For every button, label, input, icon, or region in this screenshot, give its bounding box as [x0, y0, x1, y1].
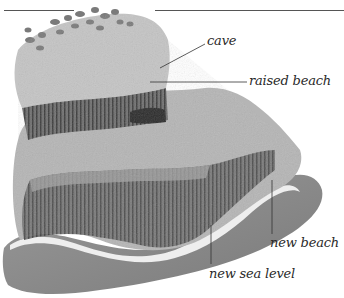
diagram-stage: cave raised beach new beach new sea leve…	[0, 0, 344, 298]
label-new-sea-level: new sea level	[209, 266, 295, 281]
label-raised-beach: raised beach	[249, 73, 331, 88]
label-cave: cave	[207, 33, 236, 48]
label-new-beach: new beach	[270, 235, 339, 250]
landscape-model-illustration	[0, 0, 344, 298]
